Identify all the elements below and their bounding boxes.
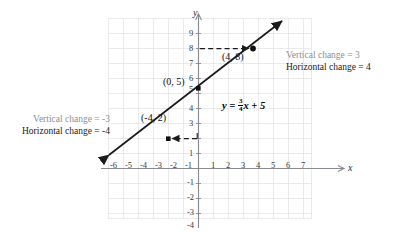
x-tick-7: 7 [301,161,305,170]
y-tick-1: 1 [189,149,193,158]
x-tick-2: 2 [226,161,230,170]
y-axis-name: y [193,8,197,18]
y-tick-5: 5 [189,85,193,94]
point-label-0-5: (0, 5) [163,77,185,87]
y-tick-neg1: -1 [187,178,194,187]
x-tick-neg3: -3 [155,161,162,170]
y-tick-neg2: -2 [187,193,194,202]
y-tick-neg4: -4 [187,221,194,230]
point-marker-neg4-2 [166,136,171,141]
x-tick-neg1: -1 [185,161,192,170]
annotation-right: Vertical change = 3 Horizontal change = … [286,50,371,74]
y-tick-8: 8 [189,44,193,53]
dashed-guide-left [172,133,197,139]
x-tick-neg6: -6 [110,161,117,170]
y-tick-6: 6 [189,74,193,83]
y-tick-9: 9 [189,29,193,38]
x-tick-neg4: -4 [140,161,147,170]
x-tick-6: 6 [286,161,290,170]
x-tick-neg2: -2 [170,161,177,170]
y-tick-4: 4 [189,104,193,113]
line-graph-series [109,21,282,155]
annotation-left: Vertical change = -3 Horizontal change =… [22,114,110,138]
point-marker-0-5 [196,86,201,91]
equation-lhs: y [222,100,227,111]
annotation-right-vertical: Vertical change = 3 [286,50,371,62]
x-axis-name: x [348,163,352,173]
x-tick-4: 4 [256,161,260,170]
point-label-4-8: (4, 8) [222,52,244,62]
x-tick-3: 3 [241,161,245,170]
x-tick-neg5: -5 [125,161,132,170]
equation-label: y = 3 4 x + 5 [222,98,265,114]
point-label-neg4-2: (-4, 2) [141,113,166,123]
x-tick-1: 1 [211,161,215,170]
equation-variable: x [243,100,248,111]
axis-lines [101,14,344,228]
y-tick-neg3: -3 [187,208,194,217]
annotation-right-horizontal: Horizontal change = 4 [286,62,371,74]
figure-canvas: y x -6 -5 -4 -3 -2 -1 1 2 3 4 5 6 7 9 8 … [0,0,399,234]
x-tick-5: 5 [271,161,275,170]
point-marker-4-8 [250,46,256,52]
equation-plus-term: + 5 [251,100,265,111]
annotation-left-horizontal: Horizontal change = -4 [22,126,110,138]
y-tick-3: 3 [189,119,193,128]
equation-equals: = [229,100,235,111]
y-tick-7: 7 [189,59,193,68]
annotation-left-vertical: Vertical change = -3 [22,114,110,126]
